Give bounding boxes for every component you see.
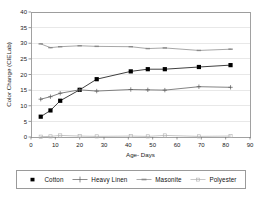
x-tick-label: 20 [76, 142, 83, 148]
data-point [228, 63, 232, 67]
series-line [41, 135, 231, 136]
y-tick-label: 40 [20, 9, 27, 15]
chart-legend: Cotton Heavy Linen Masonite Polyester [16, 170, 246, 189]
plot-area: 05101520253035400102030405060708090Age- … [0, 0, 262, 162]
x-tick-label: 0 [29, 142, 33, 148]
legend-label-heavy-linen: Heavy Linen [91, 176, 127, 183]
data-point [163, 67, 167, 71]
legend-item-heavy-linen: Heavy Linen [72, 175, 127, 184]
data-point [129, 69, 133, 73]
x-tick-label: 10 [52, 142, 59, 148]
series-line [41, 65, 231, 117]
x-tick-label: 40 [125, 142, 132, 148]
data-point [48, 108, 52, 112]
data-point [146, 67, 150, 71]
legend-item-polyester: Polyester [190, 175, 236, 184]
data-point [58, 99, 62, 103]
data-point [39, 115, 43, 119]
y-tick-label: 15 [20, 87, 27, 93]
x-tick-label: 60 [174, 142, 181, 148]
masonite-marker-icon [136, 175, 152, 184]
y-tick-label: 0 [24, 134, 28, 140]
data-point [95, 77, 99, 81]
legend-label-polyester: Polyester [209, 176, 236, 183]
data-point [197, 65, 201, 69]
series-line [41, 87, 231, 100]
y-tick-label: 30 [20, 40, 27, 46]
x-tick-label: 70 [198, 142, 205, 148]
polyester-marker-icon [190, 175, 206, 184]
heavy-linen-marker-icon [72, 175, 88, 184]
series-line [41, 44, 231, 51]
chart-figure: 05101520253035400102030405060708090Age- … [0, 0, 262, 200]
x-axis-title: Age- Days [126, 151, 155, 158]
x-tick-label: 30 [101, 142, 108, 148]
y-tick-label: 10 [20, 103, 27, 109]
x-tick-label: 80 [222, 142, 229, 148]
x-tick-label: 90 [247, 142, 254, 148]
series-polyester [39, 134, 232, 138]
legend-item-cotton: Cotton [25, 175, 63, 184]
cotton-marker-icon [25, 175, 41, 184]
x-tick-label: 50 [149, 142, 156, 148]
series-masonite [39, 44, 233, 51]
y-axis-title: Color Change (CIELab) [5, 42, 12, 107]
chart-svg: 05101520253035400102030405060708090Age- … [0, 0, 262, 162]
legend-label-cotton: Cotton [44, 176, 63, 183]
series-cotton [39, 63, 233, 119]
y-tick-label: 25 [20, 56, 27, 62]
y-tick-label: 20 [20, 72, 27, 78]
legend-label-masonite: Masonite [155, 176, 181, 183]
legend-item-masonite: Masonite [136, 175, 181, 184]
series-heavy-linen [39, 84, 233, 101]
y-tick-label: 5 [24, 119, 28, 125]
y-tick-label: 35 [20, 25, 27, 31]
